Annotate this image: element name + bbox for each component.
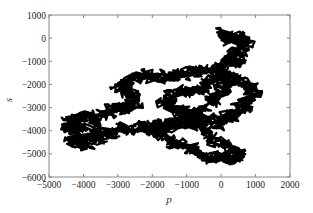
y-tick-label: 1000 bbox=[27, 11, 46, 21]
x-tick-label: −1000 bbox=[175, 180, 200, 190]
y-tick-label: 0 bbox=[41, 34, 46, 44]
y-tick-label: −3000 bbox=[22, 103, 47, 113]
x-tick-label: −3000 bbox=[106, 180, 131, 190]
x-tick-label: 1000 bbox=[246, 180, 265, 190]
y-tick-label: −2000 bbox=[22, 80, 47, 90]
x-tick-label: 0 bbox=[219, 180, 224, 190]
y-tick-label: −5000 bbox=[22, 149, 47, 159]
y-tick-label: −6000 bbox=[22, 173, 47, 183]
y-tick-label: −4000 bbox=[22, 126, 47, 136]
x-tick-label: −4000 bbox=[71, 180, 96, 190]
x-axis-label: p bbox=[165, 193, 172, 205]
chart-figure: −5000−4000−3000−2000−1000010002000 10000… bbox=[0, 0, 313, 213]
y-tick-label: −1000 bbox=[22, 57, 47, 67]
x-tick-label: 2000 bbox=[281, 180, 300, 190]
y-axis-label: s bbox=[2, 98, 14, 102]
x-tick-label: −2000 bbox=[140, 180, 165, 190]
